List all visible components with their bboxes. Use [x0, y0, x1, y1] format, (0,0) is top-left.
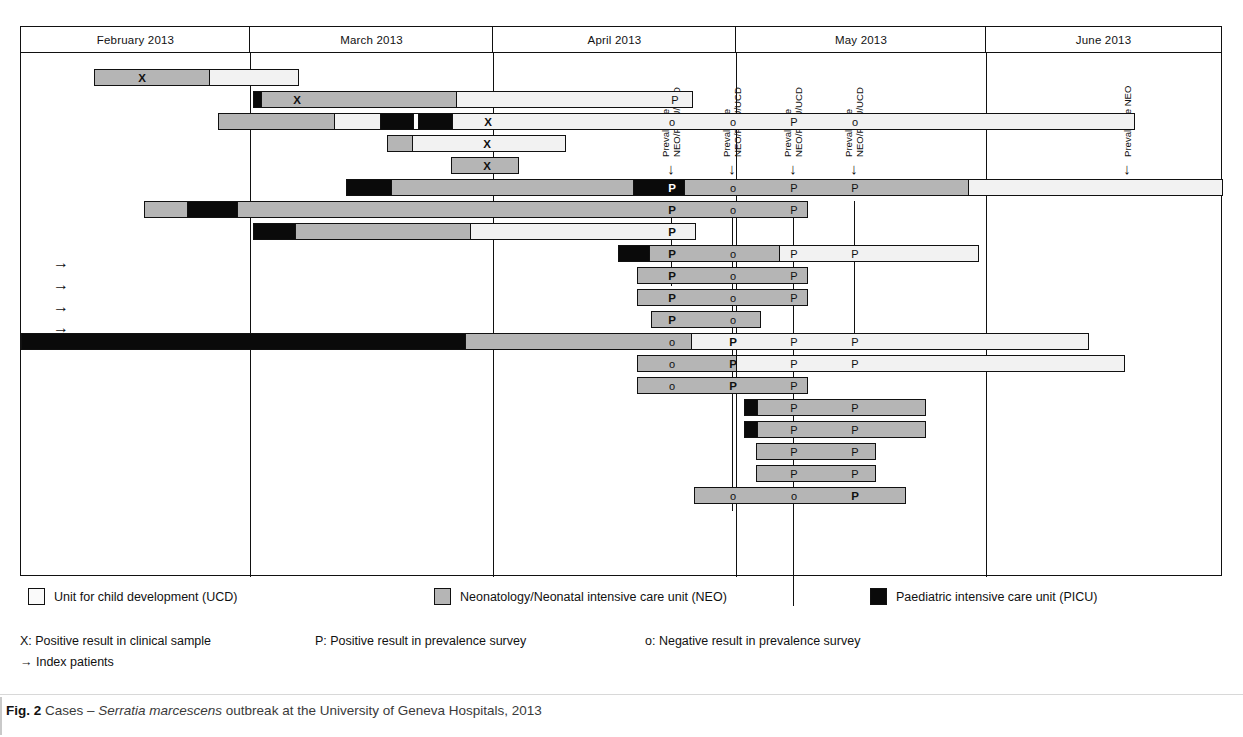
segment-neo [237, 202, 807, 217]
segment-ucd [209, 70, 298, 85]
marker-note-3: o: Negative result in prevalence survey [645, 634, 860, 648]
segment-neo [295, 224, 470, 239]
month-header-february: February 2013 [21, 27, 250, 53]
month-label: March 2013 [340, 34, 403, 46]
segment-picu [347, 180, 391, 195]
caption-pre: Cases – [41, 703, 98, 718]
chart-frame: February 2013March 2013April 2013May 201… [20, 26, 1222, 576]
survey-3-label: Prevalence NEO/PICU/UCD [782, 57, 804, 157]
index-patient-arrow-icon-1: → [53, 256, 69, 270]
case-bar-case-19: PP [756, 465, 876, 482]
month-header-row: February 2013March 2013April 2013May 201… [21, 27, 1221, 53]
case-bar-case-8: P [253, 223, 696, 240]
case-bar-case-6: PoPP [346, 179, 1223, 196]
index-patients-note: → Index patients [20, 655, 114, 669]
survey-4-label: Prevalence NEO/PICU/UCD [843, 57, 865, 157]
caption-species: Serratia marcescens [98, 703, 222, 718]
segment-neo [638, 268, 807, 283]
case-bar-case-5: X [451, 157, 519, 174]
segment-picu [254, 224, 295, 239]
segment-neo [757, 444, 875, 459]
segment-ucd [470, 224, 695, 239]
month-label: May 2013 [835, 34, 887, 46]
segment-neo [145, 202, 187, 217]
segment-neo [388, 136, 412, 151]
case-bar-case-13: oPPP [21, 333, 1089, 350]
segment-neo [638, 378, 807, 393]
segment-ucd [412, 136, 565, 151]
case-bar-case-7: PoP [144, 201, 808, 218]
segment-picu [633, 180, 684, 195]
month-label: February 2013 [97, 34, 174, 46]
caption-post: outbreak at the University of Geneva Hos… [222, 703, 542, 718]
survey-4-arrow-icon: ↓ [839, 161, 869, 176]
segment-neo [757, 466, 875, 481]
case-bar-case-14: oPPP [637, 355, 1125, 372]
segment-picu [380, 114, 413, 129]
figure-label: Fig. 2 [6, 703, 41, 718]
month-label: April 2013 [588, 34, 642, 46]
case-bar-case-9: PoPP [618, 245, 979, 262]
survey-2-arrow-icon: ↓ [717, 161, 747, 176]
legend-swatch-neo [434, 588, 451, 605]
figure-container: February 2013March 2013April 2013May 201… [0, 0, 1243, 737]
legend-label-ucd: Unit for child development (UCD) [54, 590, 237, 604]
case-bar-case-16: PP [744, 399, 926, 416]
unit-legend: Unit for child development (UCD)Neonatol… [20, 588, 1222, 614]
figure-caption: Fig. 2 Cases – Serratia marcescens outbr… [6, 703, 1236, 718]
segment-picu [187, 202, 237, 217]
segment-picu [22, 334, 465, 349]
marker-note-2: P: Positive result in prevalence survey [315, 634, 526, 648]
segment-ucd [334, 114, 380, 129]
segment-ucd [456, 92, 692, 107]
survey-2-label: Prevalence NEO/PICU/UCD [721, 57, 743, 157]
segment-neo [757, 400, 925, 415]
segment-picu [745, 400, 757, 415]
segment-ucd [452, 114, 1135, 129]
legend-swatch-picu [870, 588, 887, 605]
month-label: June 2013 [1076, 34, 1132, 46]
month-header-may: May 2013 [736, 27, 986, 53]
case-bar-case-10: PoP [637, 267, 808, 284]
survey-3-arrow-icon: ↓ [778, 161, 808, 176]
legend-swatch-ucd [28, 588, 45, 605]
segment-neo [638, 290, 807, 305]
case-bar-case-18: PP [756, 443, 876, 460]
segment-picu [745, 422, 757, 437]
caption-left-bar [0, 697, 2, 735]
plot-area: Prevalence NEO/PICU/UCD↓Prevalence NEO/P… [21, 53, 1221, 577]
segment-neo [219, 114, 334, 129]
segment-ucd [691, 334, 1088, 349]
segment-neo [261, 92, 456, 107]
index-patient-arrow-icon-2: → [53, 278, 69, 292]
survey-1-arrow-icon: ↓ [656, 161, 686, 176]
legend-item-picu: Paediatric intensive care unit (PICU) [870, 588, 1097, 605]
case-bar-case-12: Po [651, 311, 761, 328]
case-bar-case-2: XP [253, 91, 693, 108]
segment-neo [638, 356, 736, 371]
segment-neo [452, 158, 518, 173]
segment-neo [391, 180, 633, 195]
legend-label-neo: Neonatology/Neonatal intensive care unit… [460, 590, 727, 604]
marker-note-1: X: Positive result in clinical sample [20, 634, 211, 648]
month-header-june: June 2013 [986, 27, 1221, 53]
segment-ucd [968, 180, 1222, 195]
survey-4-tick [854, 201, 855, 336]
case-bar-case-11: PoP [637, 289, 808, 306]
segment-picu [418, 114, 452, 129]
segment-neo [695, 488, 905, 503]
survey-5-label: Prevalence NEO [1122, 57, 1133, 157]
segment-neo [649, 246, 779, 261]
caption-divider [0, 694, 1243, 695]
month-header-march: March 2013 [250, 27, 493, 53]
legend-label-picu: Paediatric intensive care unit (PICU) [896, 590, 1097, 604]
legend-item-neo: Neonatology/Neonatal intensive care unit… [434, 588, 727, 605]
segment-neo [757, 422, 925, 437]
segment-picu [254, 92, 261, 107]
segment-neo [465, 334, 691, 349]
survey-5-arrow-icon: ↓ [1112, 161, 1142, 176]
segment-ucd [736, 356, 1124, 371]
case-bar-case-15: oPP [637, 377, 808, 394]
case-bar-case-20: ooP [694, 487, 906, 504]
marker-legend: → Index patients X: Positive result in c… [20, 634, 1222, 680]
